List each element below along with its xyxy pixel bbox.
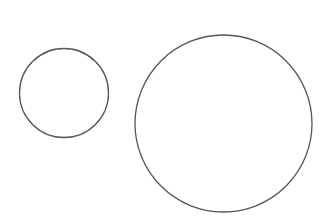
large-circle xyxy=(135,35,312,212)
diagram-canvas xyxy=(0,0,330,224)
small-circle xyxy=(20,49,109,138)
